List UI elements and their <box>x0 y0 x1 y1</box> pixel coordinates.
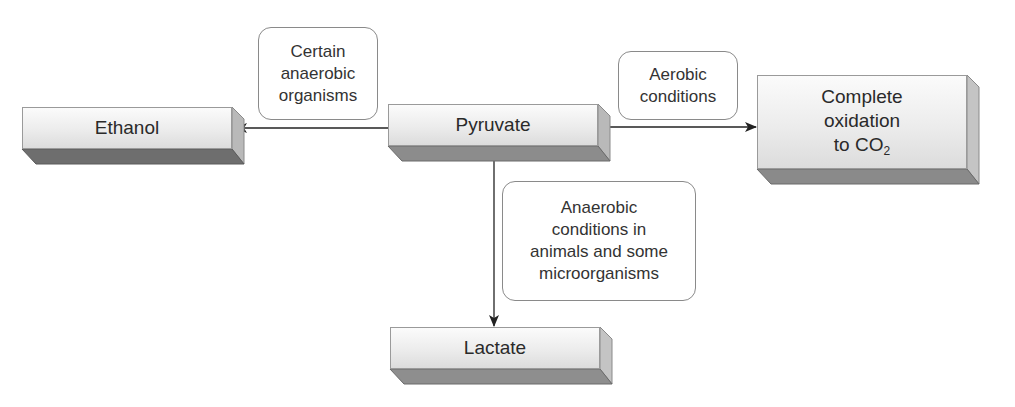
node-pyruvate-label: Pyruvate <box>456 113 531 137</box>
node-complete-line2: oxidation <box>824 109 900 133</box>
node-lactate: Lactate <box>390 327 612 384</box>
node-lactate-label: Lactate <box>464 336 526 360</box>
node-ethanol: Ethanol <box>22 107 244 164</box>
edge-label-line: Aerobic <box>649 64 707 86</box>
edge-label-anaerobic-animals: Anaerobic conditions in animals and some… <box>502 181 696 301</box>
node-ethanol-label: Ethanol <box>95 116 159 140</box>
edge-label-line: anaerobic <box>281 63 356 85</box>
edge-label-line: microorganisms <box>539 263 659 285</box>
node-complete-oxidation-face: Complete oxidation to CO2 <box>757 75 967 169</box>
node-complete-subscript: 2 <box>883 144 890 158</box>
node-complete-line3-text: to CO <box>834 134 884 155</box>
edge-label-line: animals and some <box>530 241 668 263</box>
edge-label-line: Anaerobic <box>561 197 638 219</box>
edge-label-line: Certain <box>291 41 346 63</box>
node-pyruvate-face: Pyruvate <box>388 104 598 146</box>
edge-label-line: conditions <box>640 86 717 108</box>
edge-label-aerobic: Aerobic conditions <box>618 51 738 120</box>
edge-label-certain-anaerobic: Certain anaerobic organisms <box>258 27 378 120</box>
node-complete-line1: Complete <box>821 85 902 109</box>
node-lactate-face: Lactate <box>390 327 600 369</box>
node-complete-oxidation: Complete oxidation to CO2 <box>757 75 979 184</box>
node-complete-line3: to CO2 <box>834 133 890 157</box>
node-pyruvate: Pyruvate <box>388 104 610 161</box>
edge-label-line: conditions in <box>552 219 647 241</box>
node-ethanol-face: Ethanol <box>22 107 232 149</box>
edge-label-line: organisms <box>279 85 357 107</box>
